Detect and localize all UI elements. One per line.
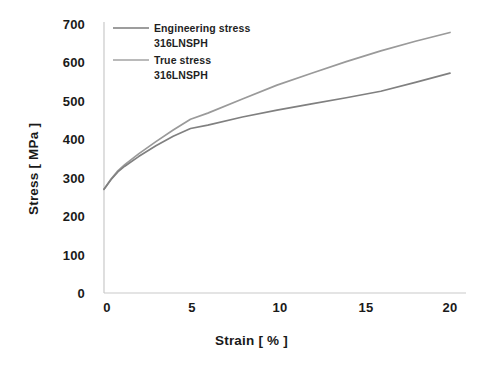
series-line-engineering-stress [104,73,450,189]
chart-canvas [0,0,491,373]
stress-strain-chart: 700 600 500 400 300 200 100 0 0 5 10 15 … [0,0,491,373]
